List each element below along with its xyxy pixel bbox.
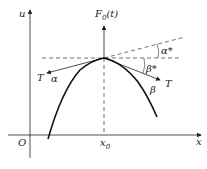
beta-star-arc — [143, 58, 145, 73]
axis-y-label: u — [19, 8, 25, 19]
function-diagram: u x O x0 F0(t) T α T β α* β* — [0, 0, 207, 169]
peak-x-label: x0 — [100, 137, 111, 151]
alpha-label: α — [51, 73, 58, 84]
extended-tangent-dashed — [104, 37, 185, 58]
right-tangent-label: T — [165, 78, 173, 89]
beta-label: β — [149, 84, 156, 95]
f0-label: F0(t) — [94, 8, 118, 22]
curve — [48, 58, 157, 139]
alpha-star-arc — [157, 44, 159, 58]
beta-star-label: β* — [145, 63, 157, 74]
origin-label: O — [18, 137, 26, 148]
axis-x-label: x — [196, 136, 202, 147]
alpha-star-label: α* — [161, 45, 173, 56]
left-tangent-label: T — [37, 72, 45, 83]
